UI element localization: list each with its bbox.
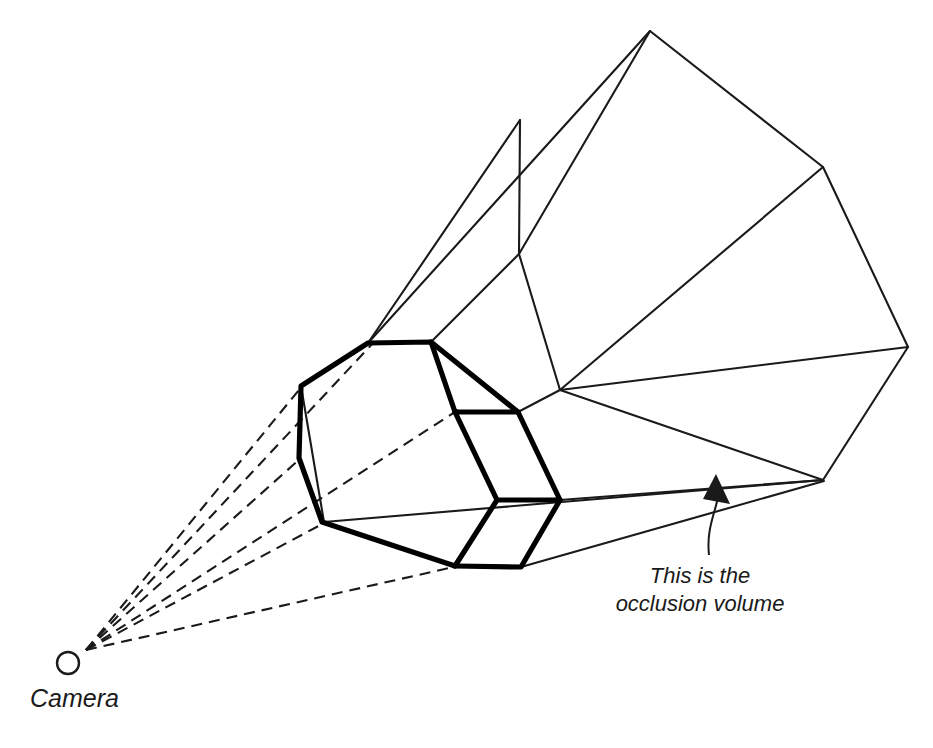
camera-group[interactable] bbox=[57, 652, 79, 674]
volume-edge-vertical bbox=[519, 120, 520, 254]
figure-root: Camera This is the occlusion volume bbox=[0, 0, 933, 748]
annotation-line-1: This is the bbox=[650, 563, 750, 588]
annotation-line-2: occlusion volume bbox=[616, 591, 785, 616]
camera-label: Camera bbox=[30, 684, 119, 712]
camera-icon[interactable] bbox=[57, 652, 79, 674]
diagram-background bbox=[0, 0, 933, 748]
occlusion-volume-diagram: Camera This is the occlusion volume bbox=[0, 0, 933, 748]
